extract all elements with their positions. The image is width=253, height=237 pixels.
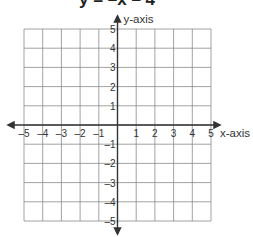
y-axis-label: y-axis — [124, 13, 154, 25]
y-tick-label: 5 — [110, 24, 116, 35]
x-tick-label: –5 — [18, 128, 30, 139]
x-tick-label: –2 — [75, 128, 87, 139]
y-tick-label: –2 — [104, 158, 116, 169]
x-tick-label: –4 — [37, 128, 49, 139]
y-tick-label: 1 — [110, 101, 116, 112]
x-tick-label: 3 — [171, 128, 177, 139]
x-tick-labels: –5–4–3–2–112345 — [18, 128, 214, 139]
coordinate-plane: y = –x – 4 –5–4–3–2–112345 54321–1–2–3–4… — [0, 0, 253, 237]
x-tick-label: 5 — [208, 128, 214, 139]
chart-title: y = –x – 4 — [79, 0, 156, 9]
x-tick-label: –3 — [56, 128, 68, 139]
y-tick-label: –5 — [104, 216, 116, 227]
x-tick-label: 1 — [133, 128, 139, 139]
y-tick-label: –1 — [104, 139, 116, 150]
y-tick-label: –4 — [104, 197, 116, 208]
y-tick-label: 3 — [110, 62, 116, 73]
y-tick-label: –3 — [104, 178, 116, 189]
y-tick-label: 4 — [110, 43, 116, 54]
x-axis-label: x-axis — [220, 127, 250, 139]
y-tick-label: 2 — [110, 82, 116, 93]
x-tick-label: –1 — [93, 128, 105, 139]
x-tick-label: 2 — [152, 128, 158, 139]
x-tick-label: 4 — [190, 128, 196, 139]
